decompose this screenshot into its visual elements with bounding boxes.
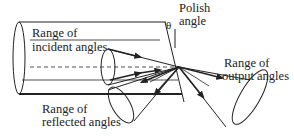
output-angles-label-line2: output angles — [222, 70, 289, 82]
reflected-angles-label-line1: Range of — [42, 103, 87, 115]
incident-angles-label-line1: Range of — [32, 27, 77, 39]
incident-angles-label-line2: incident angles — [32, 41, 107, 53]
fiber-polish-diagram: Polish angle θ Range of incident angles … — [0, 0, 294, 136]
polish-angle-label-line1: Polish — [179, 2, 210, 14]
theta-symbol: θ — [166, 19, 171, 31]
reflected-angles-label-line2: reflected angles — [42, 116, 121, 128]
polish-angle-label-line2: angle — [179, 15, 206, 27]
polished-face — [165, 22, 184, 102]
output-angles-label-line1: Range of — [224, 57, 269, 69]
